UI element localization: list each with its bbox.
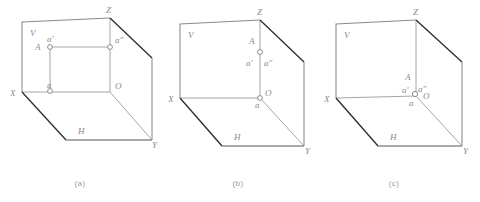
oy-axis bbox=[416, 96, 462, 146]
h-plane-left-edge bbox=[180, 98, 222, 146]
w-plane-top-edge bbox=[260, 20, 304, 62]
label-plane-v: V bbox=[30, 28, 37, 38]
label-plane-h: H bbox=[233, 132, 241, 142]
label-origin: O bbox=[115, 81, 122, 91]
point-marker-a-double-prime bbox=[108, 45, 113, 50]
label-axis-z: Z bbox=[413, 7, 419, 17]
caption-b: (b) bbox=[158, 179, 318, 188]
figure-canvas: V H X Y Z O A a' a" a (a) V H bbox=[0, 0, 480, 202]
label-proj-w: a" bbox=[115, 35, 124, 45]
label-axis-y: Y bbox=[305, 146, 311, 156]
diagram-b-svg: V H X Y Z O A a' a" a bbox=[158, 0, 318, 180]
label-axis-y: Y bbox=[463, 146, 469, 156]
diagram-a-svg: V H X Y Z O A a' a" a bbox=[0, 0, 160, 180]
caption-c: (c) bbox=[314, 179, 474, 188]
label-plane-v: V bbox=[188, 30, 195, 40]
h-plane-left-edge bbox=[336, 98, 378, 146]
label-axis-x: X bbox=[323, 94, 330, 104]
oy-axis bbox=[110, 92, 152, 140]
diagram-c-svg: V H X Y Z O A a' a" a bbox=[314, 0, 474, 180]
label-proj-v: a' bbox=[47, 34, 55, 44]
ox-axis bbox=[336, 96, 416, 98]
point-marker-a-prime-a-double-prime bbox=[258, 50, 263, 55]
label-axis-x: X bbox=[167, 94, 174, 104]
label-proj-h: a bbox=[409, 98, 414, 108]
label-proj-v: a' bbox=[246, 58, 254, 68]
label-plane-h: H bbox=[77, 126, 85, 136]
label-proj-w: a" bbox=[264, 58, 273, 68]
label-axis-z: Z bbox=[106, 5, 112, 15]
label-point-a: A bbox=[34, 42, 41, 52]
label-proj-h: a bbox=[47, 80, 52, 90]
diagram-b: V H X Y Z O A a' a" a (b) bbox=[158, 0, 318, 202]
caption-a: (a) bbox=[0, 179, 160, 188]
label-axis-x: X bbox=[9, 88, 16, 98]
label-plane-h: H bbox=[389, 132, 397, 142]
diagram-a: V H X Y Z O A a' a" a (a) bbox=[0, 0, 160, 202]
label-point-a: A bbox=[248, 36, 255, 46]
label-axis-z: Z bbox=[257, 7, 263, 17]
diagram-c: V H X Y Z O A a' a" a (c) bbox=[314, 0, 474, 202]
point-marker-origin-coincident bbox=[412, 91, 417, 96]
point-marker-a-prime bbox=[48, 45, 53, 50]
oy-axis bbox=[260, 98, 304, 146]
label-plane-v: V bbox=[344, 30, 351, 40]
label-origin: O bbox=[265, 88, 272, 98]
h-plane-left-edge bbox=[22, 92, 66, 140]
label-point-a: A bbox=[404, 72, 411, 82]
w-plane-top-edge bbox=[416, 20, 462, 62]
label-proj-w: a" bbox=[418, 84, 427, 94]
label-proj-h: a bbox=[255, 100, 260, 110]
label-proj-v: a' bbox=[402, 85, 410, 95]
